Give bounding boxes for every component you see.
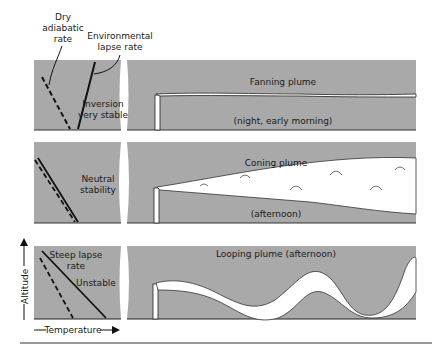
dry-adiabatic-label: Dry	[55, 12, 72, 22]
altitude-arrow-icon	[20, 238, 28, 246]
temperature-label: Temperature	[43, 325, 101, 335]
plume-title: Coning plume	[245, 158, 308, 168]
smokestack	[155, 95, 160, 130]
stability-label: very stable	[78, 110, 129, 120]
stability-label: rate	[67, 261, 86, 271]
temperature-arrow-icon	[112, 326, 120, 334]
time-note: (afternoon)	[251, 209, 302, 219]
time-note: (night, early morning)	[234, 116, 333, 126]
stability-label: Unstable	[76, 278, 116, 288]
env-lapse-label: Environmental	[87, 31, 152, 41]
smokestack	[154, 188, 159, 223]
stability-label: Steep lapse	[50, 250, 103, 260]
stability-label: Inversion	[82, 99, 123, 109]
stability-label: Neutral	[81, 174, 114, 184]
dry-adiabatic-label: adiabatic	[42, 23, 84, 33]
plume-title: Fanning plume	[250, 77, 317, 87]
stability-label: stability	[80, 185, 116, 195]
env-lapse-label: lapse rate	[97, 42, 143, 52]
altitude-label: Altitude	[20, 268, 30, 304]
plume-title: Looping plume (afternoon)	[216, 249, 336, 259]
dry-adiabatic-label: rate	[54, 34, 73, 44]
plume-diagram: Dry adiabatic rate Environmental lapse r…	[0, 0, 432, 354]
smokestack	[153, 284, 158, 319]
